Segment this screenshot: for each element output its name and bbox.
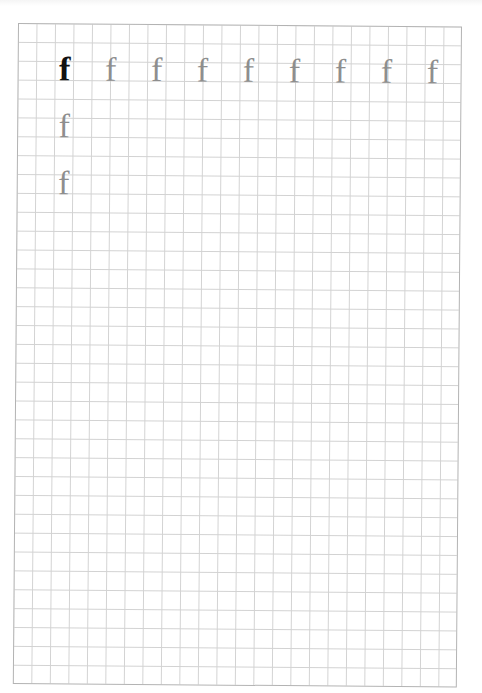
trace-letter-f: f: [147, 53, 167, 87]
cropped-header-text: [0, 0, 482, 6]
trace-letter-f: f: [330, 54, 350, 88]
trace-letter-f: f: [238, 54, 258, 88]
trace-letter-f: f: [101, 53, 121, 87]
trace-letter-f: f: [54, 166, 74, 200]
trace-letter-f: f: [376, 55, 396, 89]
handwriting-worksheet: f f f f f f f f f f f: [13, 23, 462, 687]
grid-paper: [13, 23, 462, 687]
trace-letter-f: f: [192, 53, 212, 87]
trace-letter-f: f: [54, 109, 74, 143]
model-letter-f: f: [55, 52, 75, 86]
trace-letter-f: f: [284, 54, 304, 88]
trace-letter-f: f: [422, 55, 442, 89]
